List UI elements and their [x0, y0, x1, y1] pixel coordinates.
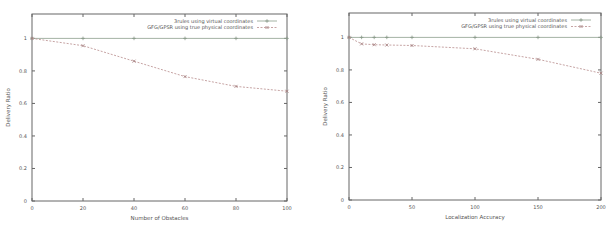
plot-frame — [32, 14, 287, 201]
y-tick-label: 0.2 — [19, 165, 27, 171]
y-axis-label: Delivery Ratio — [5, 88, 12, 127]
data-point-marker — [132, 37, 136, 41]
x-tick-label: 20 — [80, 205, 86, 211]
x-tick-label: 0 — [30, 205, 33, 211]
y-tick-label: 1 — [341, 34, 344, 40]
data-point-marker — [183, 37, 187, 41]
legend-marker — [265, 19, 269, 23]
x-tick-label: 80 — [233, 205, 239, 211]
x-tick-label: 100 — [470, 204, 480, 210]
y-tick-label: 0 — [341, 197, 344, 203]
plot-frame — [349, 13, 601, 200]
data-point-marker — [473, 36, 477, 40]
series-line-gfg-gpsr — [32, 38, 287, 91]
y-tick-label: 0.4 — [19, 133, 27, 139]
y-tick-label: 0.2 — [336, 164, 344, 170]
data-point-marker — [285, 37, 289, 41]
chart-localization-accuracy-svg: 00.20.40.60.81050100150200Localization A… — [305, 0, 610, 228]
data-point-marker — [360, 36, 364, 40]
y-axis-label: Delivery Ratio — [322, 87, 329, 126]
y-tick-label: 0.6 — [336, 99, 344, 105]
data-point-marker — [372, 36, 376, 40]
data-point-marker — [81, 37, 85, 41]
data-point-marker — [385, 36, 389, 40]
x-tick-label: 40 — [131, 205, 137, 211]
data-point-marker — [234, 37, 238, 41]
y-tick-label: 0.4 — [336, 132, 344, 138]
x-tick-label: 50 — [409, 204, 415, 210]
x-tick-label: 60 — [182, 205, 188, 211]
chart-obstacles: 00.20.40.60.81020406080100Number of Obst… — [0, 0, 305, 228]
y-tick-label: 0.8 — [19, 68, 27, 74]
chart-localization-accuracy: 00.20.40.60.81050100150200Localization A… — [305, 0, 610, 228]
x-tick-label: 150 — [533, 204, 543, 210]
y-tick-label: 0 — [24, 198, 27, 204]
y-tick-label: 0.8 — [336, 67, 344, 73]
data-point-marker — [410, 36, 414, 40]
legend-label: GFG/GPSR using true physical coordinates — [461, 23, 567, 30]
chart-obstacles-svg: 00.20.40.60.81020406080100Number of Obst… — [0, 0, 305, 228]
x-tick-label: 0 — [347, 204, 350, 210]
series-line-gfg-gpsr — [349, 37, 601, 73]
legend-label: GFG/GPSR using true physical coordinates — [147, 24, 253, 31]
legend-marker — [579, 18, 583, 22]
x-axis-label: Number of Obstacles — [131, 215, 189, 221]
y-tick-label: 1 — [24, 35, 27, 41]
x-tick-label: 200 — [596, 204, 606, 210]
data-point-marker — [599, 36, 603, 40]
x-tick-label: 100 — [282, 205, 292, 211]
data-point-marker — [536, 36, 540, 40]
y-tick-label: 0.6 — [19, 100, 27, 106]
x-axis-label: Localization Accuracy — [445, 214, 505, 221]
